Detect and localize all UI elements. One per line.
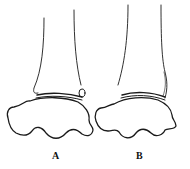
panel-a-drawing	[7, 10, 93, 138]
panel-b-drawing	[95, 5, 176, 138]
panel-label-a: A	[52, 150, 59, 161]
ankle-diagram	[0, 0, 190, 169]
panel-label-b: B	[136, 150, 143, 161]
